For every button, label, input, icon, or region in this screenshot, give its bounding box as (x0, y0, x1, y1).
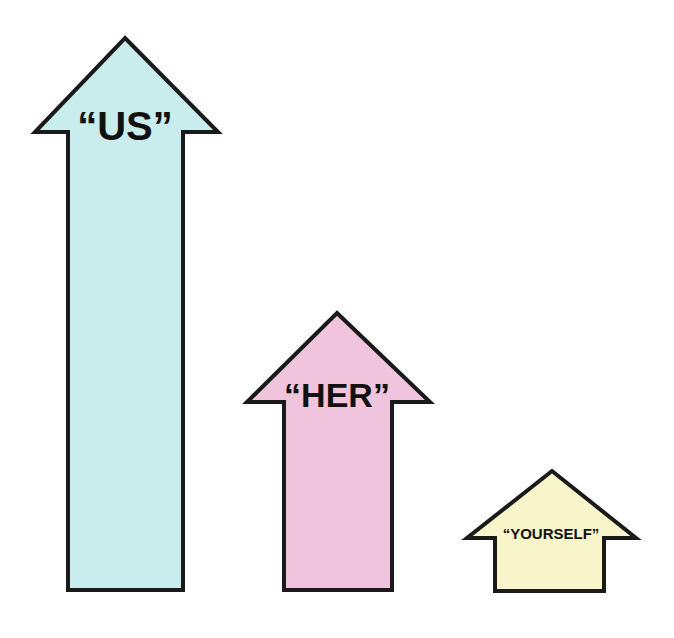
arrow-her-shape (247, 313, 430, 590)
arrow-her-label: “HER” (262, 376, 412, 415)
arrow-us-label: “US” (55, 104, 195, 149)
arrows-diagram (0, 0, 674, 638)
arrow-yourself-label: “YOURSELF” (470, 525, 632, 542)
